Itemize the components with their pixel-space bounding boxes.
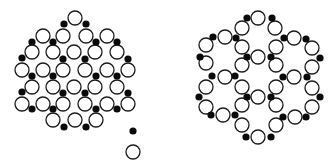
open-atom-icon: [251, 50, 265, 64]
filled-atom-icon: [92, 72, 99, 79]
filled-atom-icon: [207, 111, 214, 118]
filled-atom-icon: [60, 20, 67, 27]
open-atom-icon: [199, 38, 213, 52]
filled-atom-icon: [82, 20, 89, 27]
open-atom-icon: [78, 97, 92, 111]
filled-atom-icon: [113, 105, 120, 112]
filled-atom-icon: [279, 73, 286, 80]
open-atom-icon: [235, 118, 249, 132]
filled-atom-icon: [196, 53, 203, 60]
atomic-structure-diagram: [0, 0, 336, 167]
filled-atom-icon: [243, 14, 250, 21]
filled-atom-icon: [195, 93, 202, 100]
open-atom-icon: [25, 45, 39, 59]
open-atom-icon: [110, 45, 124, 59]
open-atom-icon: [251, 130, 265, 144]
open-atom-icon: [79, 29, 93, 43]
filled-atom-icon: [82, 123, 89, 130]
filled-atom-icon: [242, 133, 249, 140]
filled-atom-icon: [267, 133, 274, 140]
filled-atom-icon: [279, 113, 286, 120]
filled-atom-icon: [208, 72, 215, 79]
filled-atom-icon: [28, 72, 35, 79]
open-atom-icon: [218, 30, 232, 44]
filled-atom-icon: [316, 93, 323, 100]
filled-atom-icon: [60, 123, 67, 130]
filled-atom-icon: [243, 93, 250, 100]
filled-atom-icon: [18, 88, 25, 95]
open-atom-icon: [46, 113, 60, 127]
open-atom-icon: [56, 97, 70, 111]
filled-atom-icon: [129, 127, 136, 134]
filled-atom-icon: [231, 72, 238, 79]
open-atom-icon: [251, 11, 265, 25]
filled-atom-icon: [49, 72, 56, 79]
filled-atom-icon: [28, 38, 35, 45]
open-atom-icon: [216, 108, 230, 122]
open-atom-icon: [88, 45, 102, 59]
open-atom-icon: [268, 21, 282, 35]
open-atom-icon: [78, 63, 92, 77]
open-atom-icon: [100, 97, 114, 111]
open-atom-icon: [36, 29, 50, 43]
open-atom-icon: [288, 110, 302, 124]
filled-atom-icon: [231, 111, 238, 118]
open-atom-icon: [110, 80, 124, 94]
open-atom-icon: [269, 118, 283, 132]
filled-atom-icon: [303, 73, 310, 80]
open-atom-icon: [88, 80, 102, 94]
filled-atom-icon: [59, 89, 66, 96]
filled-atom-icon: [92, 38, 99, 45]
open-atom-icon: [46, 80, 60, 94]
open-atom-icon: [56, 29, 70, 43]
filled-atom-icon: [280, 34, 287, 41]
open-atom-icon: [100, 63, 114, 77]
filled-atom-icon: [113, 72, 120, 79]
filled-atom-icon: [59, 55, 66, 62]
open-atom-icon: [305, 60, 319, 74]
open-atom-icon: [46, 45, 60, 59]
filled-atom-icon: [18, 54, 25, 61]
filled-atom-icon: [49, 38, 56, 45]
open-atom-icon: [121, 63, 135, 77]
open-atom-icon: [15, 97, 29, 111]
open-atom-icon: [305, 41, 319, 55]
open-atom-icon: [287, 31, 301, 45]
filled-atom-icon: [124, 89, 131, 96]
open-atom-icon: [56, 63, 70, 77]
open-atom-icon: [68, 113, 82, 127]
open-atom-icon: [269, 40, 283, 54]
filled-atom-icon: [124, 55, 131, 62]
filled-atom-icon: [81, 55, 88, 62]
filled-atom-icon: [302, 35, 309, 42]
open-atom-icon: [235, 40, 249, 54]
filled-atom-icon: [92, 105, 99, 112]
filled-atom-icon: [267, 93, 274, 100]
filled-atom-icon: [209, 33, 216, 40]
filled-atom-icon: [232, 34, 239, 41]
filled-atom-icon: [302, 113, 309, 120]
filled-atom-icon: [268, 14, 275, 21]
filled-atom-icon: [81, 89, 88, 96]
open-atom-icon: [100, 29, 114, 43]
open-atom-icon: [67, 45, 81, 59]
open-atom-icon: [305, 100, 319, 114]
open-atom-icon: [199, 80, 213, 94]
open-atom-icon: [218, 70, 232, 84]
open-atom-icon: [235, 21, 249, 35]
filled-atom-icon: [49, 105, 56, 112]
open-atom-icon: [287, 70, 301, 84]
open-atom-icon: [121, 97, 135, 111]
open-atom-icon: [269, 80, 283, 94]
open-atom-icon: [15, 63, 29, 77]
open-atom-icon: [89, 113, 103, 127]
open-atom-icon: [68, 11, 82, 25]
filled-atom-icon: [28, 105, 35, 112]
filled-atom-icon: [316, 54, 323, 61]
open-atom-icon: [235, 80, 249, 94]
filled-atom-icon: [243, 53, 250, 60]
open-atom-icon: [67, 80, 81, 94]
open-atom-icon: [25, 80, 39, 94]
filled-atom-icon: [113, 38, 120, 45]
open-atom-icon: [126, 145, 140, 159]
